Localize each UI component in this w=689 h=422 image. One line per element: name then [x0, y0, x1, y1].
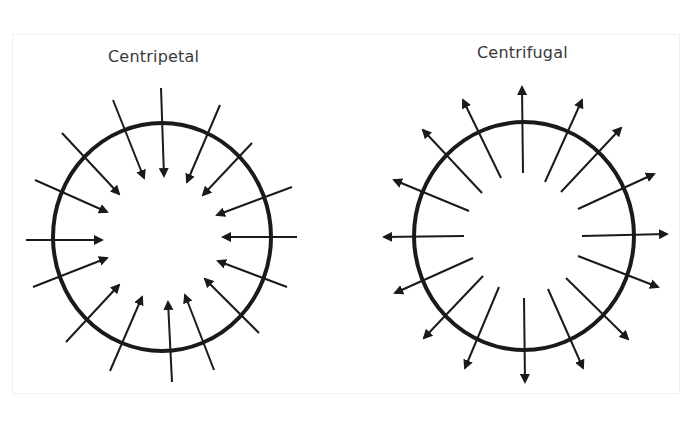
- centrifugal-diagram: [384, 87, 667, 382]
- arrow-inward-4: [203, 143, 252, 195]
- arrow-outward-13: [465, 287, 499, 368]
- arrow-outward-14: [548, 289, 583, 368]
- centripetal-diagram: [26, 88, 297, 382]
- arrow-inward-14: [185, 295, 214, 370]
- arrow-inward-1: [113, 100, 144, 178]
- arrow-outward-11: [424, 276, 483, 338]
- outward-arrows: [384, 87, 667, 382]
- arrow-inward-13: [110, 297, 142, 371]
- arrow-inward-9: [33, 258, 107, 287]
- arrow-inward-3: [62, 133, 119, 194]
- arrow-outward-0: [522, 87, 523, 173]
- inward-arrows: [26, 88, 297, 382]
- arrow-inward-2: [187, 105, 220, 182]
- arrow-inward-11: [66, 285, 119, 342]
- arrow-outward-12: [566, 278, 628, 339]
- arrow-inward-5: [35, 180, 107, 212]
- arrow-outward-3: [423, 130, 482, 193]
- diagram-canvas: [0, 0, 689, 422]
- arrow-outward-10: [578, 256, 658, 287]
- arrow-outward-15: [524, 298, 525, 382]
- arrow-outward-8: [582, 234, 667, 236]
- arrow-outward-6: [578, 174, 654, 209]
- arrow-outward-2: [545, 100, 582, 182]
- arrow-inward-15: [168, 302, 172, 382]
- arrow-outward-4: [561, 128, 621, 192]
- arrow-inward-10: [218, 261, 287, 287]
- arrow-outward-7: [384, 236, 464, 237]
- arrow-inward-0: [161, 88, 164, 176]
- arrow-outward-9: [395, 258, 473, 293]
- arrow-inward-6: [217, 187, 292, 215]
- arrow-outward-5: [394, 180, 469, 211]
